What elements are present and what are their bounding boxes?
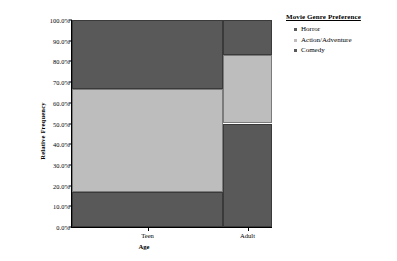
legend-item[interactable]: Action/Adventure (294, 36, 394, 45)
legend-title: Movie Genre Preference (286, 13, 394, 21)
bar-segment[interactable] (223, 55, 272, 124)
x-axis-tick-label: Teen (141, 232, 154, 239)
x-axis-title: Age (139, 243, 150, 250)
legend-swatch-icon (294, 49, 297, 52)
x-axis-tick-mark (148, 227, 149, 231)
y-axis-tick-label: 90.0% (53, 37, 70, 44)
bar-segment[interactable] (72, 89, 223, 193)
legend-item[interactable]: Horror (294, 25, 394, 34)
bar-segment[interactable] (223, 20, 272, 55)
legend-items: HorrorAction/AdventureComedy (286, 25, 394, 55)
y-axis-tick-label: 40.0% (53, 141, 70, 148)
legend: Movie Genre Preference HorrorAction/Adve… (286, 13, 394, 57)
y-axis-title: Relative Frequency (39, 102, 46, 159)
y-axis-tick-label: 30.0% (53, 161, 70, 168)
y-axis-tick-label: 60.0% (53, 99, 70, 106)
legend-item-label: Horror (301, 25, 320, 34)
bar-segment[interactable] (223, 124, 272, 228)
x-axis-tick-label: Adult (240, 232, 255, 239)
y-axis-tick-label: 0.0% (56, 224, 70, 231)
mosaic-chart: Relative Frequency 0.0%10.0%20.0%30.0%40… (0, 0, 397, 261)
bar-teen[interactable] (72, 20, 223, 227)
bar-adult[interactable] (223, 20, 272, 227)
legend-swatch-icon (294, 28, 297, 31)
y-axis-tick-label: 50.0% (53, 120, 70, 127)
legend-item-label: Action/Adventure (301, 36, 352, 45)
bar-segment[interactable] (72, 192, 223, 227)
plot-area: 0.0%10.0%20.0%30.0%40.0%50.0%60.0%70.0%8… (72, 20, 272, 227)
legend-item-label: Comedy (301, 46, 325, 55)
x-axis-tick-mark (248, 227, 249, 231)
x-axis-line (71, 227, 272, 228)
y-axis-tick-label: 10.0% (53, 203, 70, 210)
y-axis-tick-label: 20.0% (53, 182, 70, 189)
legend-swatch-icon (294, 39, 297, 42)
y-axis-tick-label: 80.0% (53, 58, 70, 65)
legend-item[interactable]: Comedy (294, 46, 394, 55)
y-axis-tick-label: 70.0% (53, 79, 70, 86)
y-axis-tick-label: 100.0% (50, 17, 70, 24)
bar-segment[interactable] (72, 20, 223, 89)
